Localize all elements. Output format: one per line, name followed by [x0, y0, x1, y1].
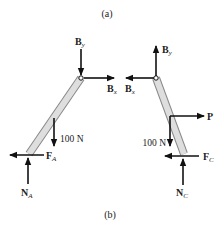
force-by-label-right: By — [162, 44, 173, 57]
force-fc-label: FC — [203, 151, 214, 164]
force-nc-label: NC — [176, 187, 188, 200]
right-fbd: By Bx P 100 N FC NC — [125, 44, 214, 200]
force-p-label: P — [207, 111, 213, 122]
caption-b: (b) — [104, 209, 116, 221]
caption-a: (a) — [101, 8, 112, 20]
load-100n-label: 100 N — [60, 134, 84, 144]
left-fbd: By Bx 100 N FA NA — [10, 36, 118, 200]
pin-b-right — [154, 76, 158, 80]
load-100n-label-right: 100 N — [143, 138, 167, 148]
pin-b-left — [79, 76, 83, 80]
free-body-diagram: (a) By Bx 100 N FA NA By Bx — [0, 0, 224, 229]
force-by-label: By — [75, 36, 86, 49]
force-fa-label: FA — [46, 150, 57, 163]
force-bx-label: Bx — [107, 83, 118, 96]
force-bx-label-right: Bx — [125, 83, 136, 96]
force-na-label: NA — [21, 187, 33, 200]
